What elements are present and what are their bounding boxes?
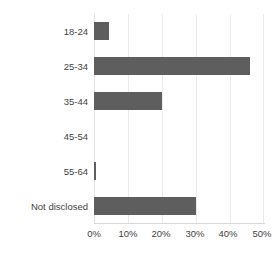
y-tick-label-45-54: 45-54 [0,119,88,154]
bar-not-disclosed[interactable] [94,197,196,215]
x-axis-labels: 0% 10% 20% 30% 40% 50% [0,228,280,246]
bar-row [94,154,264,189]
y-tick-label-not-disclosed: Not disclosed [0,189,88,224]
bars-layer [94,14,264,224]
y-tick-label-18-24: 18-24 [0,14,88,49]
bar-row [94,84,264,119]
y-tick-label-35-44: 35-44 [0,84,88,119]
y-axis-labels: 18-24 25-34 35-44 45-54 55-64 Not disclo… [0,14,88,224]
bar-chart: 18-24 25-34 35-44 45-54 55-64 Not disclo… [0,0,280,255]
bar-55-64[interactable] [94,162,96,180]
y-tick-label-25-34: 25-34 [0,49,88,84]
y-tick-label-55-64: 55-64 [0,154,88,189]
x-tick-label-50: 50% [242,228,280,239]
bar-row [94,49,264,84]
bar-row [94,14,264,49]
bar-35-44[interactable] [94,92,162,110]
bar-25-34[interactable] [94,57,250,75]
bar-row [94,189,264,224]
bar-row [94,119,264,154]
bar-18-24[interactable] [94,22,109,40]
